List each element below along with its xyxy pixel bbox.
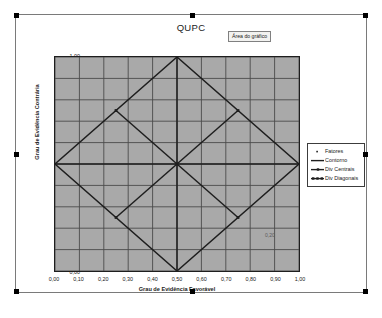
legend-item-label: Fatores bbox=[325, 147, 343, 156]
x-axis-tick-label: 1,00 bbox=[287, 276, 313, 282]
legend-marker-line-with-dot-icon bbox=[310, 165, 325, 174]
chart-object[interactable]: QUPC Área do gráfico Grau de Evidência C… bbox=[15, 14, 367, 293]
legend-marker-line-icon bbox=[310, 156, 325, 165]
y-axis-title: Grau de Evidência Contrária bbox=[34, 57, 40, 187]
selection-handle-bottom-left[interactable] bbox=[14, 289, 19, 294]
selection-handle-bottom-center[interactable] bbox=[190, 289, 195, 294]
selection-handle-bottom-right[interactable] bbox=[363, 289, 368, 294]
x-axis-tick-label: 0,40 bbox=[139, 276, 165, 282]
legend-marker-line-with-dots-icon bbox=[310, 174, 325, 183]
x-axis-tick-label: 0,00 bbox=[41, 276, 67, 282]
plot-area-tooltip: Área do gráfico bbox=[228, 31, 271, 42]
x-axis-tick-label: 0,10 bbox=[66, 276, 92, 282]
chart-title: QUPC bbox=[16, 22, 366, 33]
plot-graphics bbox=[55, 57, 299, 271]
selection-handle-top-right[interactable] bbox=[363, 13, 368, 18]
selection-handle-middle-left[interactable] bbox=[14, 152, 19, 157]
selection-handle-top-center[interactable] bbox=[190, 13, 195, 18]
x-axis-tick-label: 0,20 bbox=[90, 276, 116, 282]
legend-item-label: Div Diagonais bbox=[325, 174, 358, 183]
x-axis-tick-label: 0,90 bbox=[262, 276, 288, 282]
chart-legend[interactable]: FatoresContornoDiv CentraisDiv Diagonais bbox=[307, 143, 365, 187]
data-label-0-20: 0,20 bbox=[265, 232, 275, 238]
legend-item[interactable]: Div Diagonais bbox=[310, 174, 362, 183]
x-axis-tick-label: 0,30 bbox=[115, 276, 141, 282]
legend-item-label: Div Centrais bbox=[325, 165, 354, 174]
x-axis-tick-label: 0,60 bbox=[189, 276, 215, 282]
x-axis-tick-label: 0,50 bbox=[164, 276, 190, 282]
legend-item[interactable]: Div Centrais bbox=[310, 165, 362, 174]
selection-handle-middle-right[interactable] bbox=[363, 152, 368, 157]
legend-item[interactable]: Fatores bbox=[310, 147, 362, 156]
legend-marker-point-marker-icon bbox=[310, 147, 325, 156]
x-axis-title: Grau de Evidência Favorável bbox=[54, 286, 300, 292]
selection-handle-top-left[interactable] bbox=[14, 13, 19, 18]
x-axis-tick-label: 0,70 bbox=[213, 276, 239, 282]
plot-area[interactable] bbox=[54, 56, 300, 272]
legend-item[interactable]: Contorno bbox=[310, 156, 362, 165]
legend-item-label: Contorno bbox=[325, 156, 347, 165]
x-axis-tick-label: 0,80 bbox=[238, 276, 264, 282]
